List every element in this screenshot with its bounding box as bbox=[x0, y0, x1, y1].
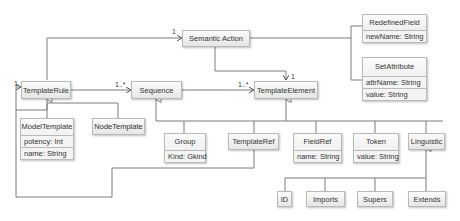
class-name: Group bbox=[165, 134, 205, 150]
class-attr: name: String bbox=[21, 147, 73, 159]
class-name: ModelTemplate bbox=[21, 119, 73, 135]
class-attr: attrName: String bbox=[363, 76, 426, 88]
class-supers[interactable]: Supers bbox=[357, 191, 393, 207]
class-linguistic[interactable]: Linguistic bbox=[408, 133, 445, 150]
class-name: Semantic Action bbox=[183, 31, 249, 47]
mult-rule-sequence: 1..* bbox=[115, 81, 126, 88]
class-semantic-action[interactable]: Semantic Action bbox=[182, 30, 250, 47]
class-name: FieldRef bbox=[294, 134, 341, 150]
mult-rule-self: 1 bbox=[14, 80, 18, 87]
class-id[interactable]: ID bbox=[277, 191, 292, 207]
class-model-template[interactable]: ModelTemplate potency: Int name: String bbox=[20, 118, 74, 160]
class-name: ID bbox=[278, 192, 291, 207]
class-attr: potency: Int bbox=[21, 135, 73, 147]
class-attr: value: String bbox=[354, 150, 398, 162]
class-redefined-field[interactable]: RedefinedField newName: String bbox=[362, 14, 427, 43]
class-template-element[interactable]: TemplateElement bbox=[254, 81, 318, 99]
class-template-rule[interactable]: TemplateRule bbox=[21, 81, 71, 99]
class-name: TemplateRef bbox=[229, 134, 278, 150]
class-name: Supers bbox=[358, 192, 392, 207]
class-attr: newName: String bbox=[363, 30, 426, 42]
class-template-ref[interactable]: TemplateRef bbox=[228, 133, 279, 150]
class-sequence[interactable]: Sequence bbox=[131, 81, 182, 99]
class-set-attribute[interactable]: SetAttribute attrName: String value: Str… bbox=[362, 57, 427, 101]
class-attr: value: String bbox=[363, 88, 426, 100]
class-token[interactable]: Token value: String bbox=[353, 133, 399, 163]
class-imports[interactable]: Imports bbox=[306, 191, 345, 207]
class-name: TemplateElement bbox=[255, 82, 317, 99]
class-name: Imports bbox=[307, 192, 344, 207]
class-name: Linguistic bbox=[409, 134, 444, 150]
class-name: Token bbox=[354, 134, 398, 150]
class-node-template[interactable]: NodeTemplate bbox=[92, 118, 145, 135]
class-attr: Kind: Gkind bbox=[165, 150, 205, 162]
class-name: RedefinedField bbox=[363, 15, 426, 30]
class-group[interactable]: Group Kind: Gkind bbox=[164, 133, 206, 163]
mult-rule-action: 1 bbox=[172, 28, 176, 35]
class-name: NodeTemplate bbox=[93, 119, 144, 135]
class-name: TemplateRule bbox=[22, 82, 70, 99]
class-attr: name: String bbox=[294, 150, 341, 162]
class-extends[interactable]: Extends bbox=[408, 191, 446, 207]
mult-sequence-element: 1..* bbox=[238, 81, 249, 88]
mult-action-element: 1 bbox=[291, 73, 295, 80]
class-name: Extends bbox=[409, 192, 445, 207]
uml-diagram: 1 1 1..* 1..* 1 Semantic Action Redefine… bbox=[0, 0, 460, 221]
class-name: Sequence bbox=[132, 82, 181, 99]
class-field-ref[interactable]: FieldRef name: String bbox=[293, 133, 342, 163]
class-name: SetAttribute bbox=[363, 58, 426, 76]
